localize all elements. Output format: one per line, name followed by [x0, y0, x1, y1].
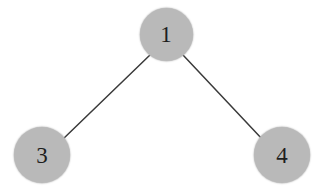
- graph-node-label: 1: [160, 22, 172, 45]
- graph-node-3[interactable]: 3: [14, 127, 70, 183]
- graph-canvas: 1 3 4: [0, 0, 325, 194]
- graph-edge-1-4: [183, 55, 263, 140]
- graph-edge-1-3: [62, 55, 150, 140]
- graph-node-label: 4: [276, 143, 288, 166]
- graph-node-4[interactable]: 4: [254, 127, 310, 183]
- graph-node-1[interactable]: 1: [140, 8, 193, 61]
- graph-node-label: 3: [36, 143, 48, 166]
